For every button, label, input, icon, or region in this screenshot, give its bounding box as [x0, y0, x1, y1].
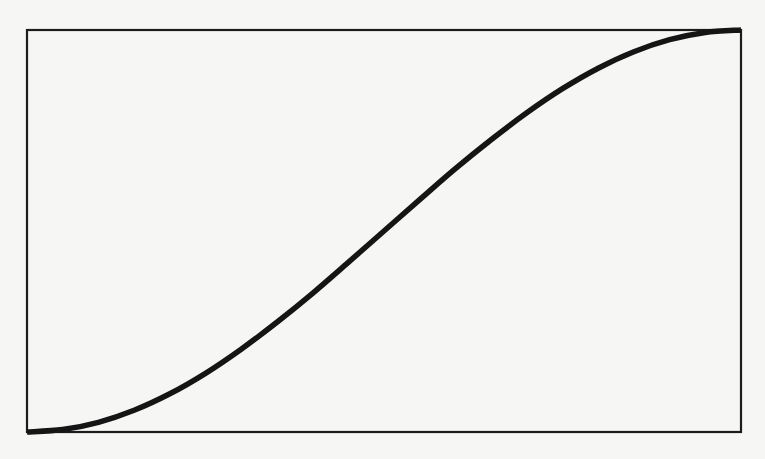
data-curve — [27, 30, 741, 432]
chart-plot — [0, 0, 765, 459]
chart-figure — [0, 0, 765, 459]
